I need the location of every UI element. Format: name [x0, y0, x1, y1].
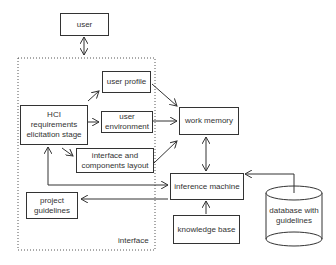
project-guidelines-node: project guidelines [26, 192, 78, 219]
user-environment-label: user environment [102, 112, 152, 132]
interface-layout-label: interface and components layout [79, 151, 151, 171]
knowledge-base-node: knowledge base [173, 215, 240, 244]
user-profile-node: user profile [102, 71, 151, 93]
work-memory-node: work memory [179, 107, 239, 135]
user-node-label: user [77, 20, 93, 30]
hci-requirements-node: HCI requirements elicitation stage [20, 105, 88, 145]
user-node: user [60, 13, 109, 36]
interface-layout-node: interface and components layout [76, 148, 154, 173]
hci-requirements-label: HCI requirements elicitation stage [24, 110, 84, 140]
inference-machine-label: inference machine [174, 182, 239, 192]
user-environment-node: user environment [101, 111, 153, 133]
interface-group-label: interface [118, 236, 149, 245]
knowledge-base-label: knowledge base [178, 225, 236, 235]
work-memory-label: work memory [185, 116, 233, 126]
user-profile-label: user profile [107, 77, 147, 87]
project-guidelines-label: project guidelines [33, 196, 71, 216]
inference-machine-node: inference machine [170, 173, 244, 200]
database-node-label: database with guidelines [266, 206, 322, 226]
